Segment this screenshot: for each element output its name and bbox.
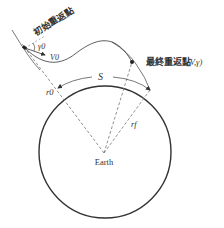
v0-label: V0 <box>50 53 59 62</box>
earth-label: Earth <box>95 157 114 167</box>
final-point-dot <box>130 60 134 64</box>
gamma0-angle-arc <box>33 43 35 51</box>
range-label: S <box>98 71 103 82</box>
initial-point-label: 初始重返點 <box>31 5 75 38</box>
radius-to-final-point <box>104 62 132 153</box>
r0-label: r0 <box>46 87 54 97</box>
gamma0-label: γ0 <box>38 42 45 51</box>
rf-label: rf <box>131 119 138 129</box>
radius-rf <box>104 90 150 153</box>
final-point-params: (V,γ) <box>187 57 202 67</box>
range-arc-left <box>58 77 92 88</box>
final-point-label: 最終重返點 <box>146 56 191 67</box>
reentry-diagram: 初始重返點 γ0 V0 最終重返點 (V,γ) S r0 rf Earth <box>0 0 224 228</box>
